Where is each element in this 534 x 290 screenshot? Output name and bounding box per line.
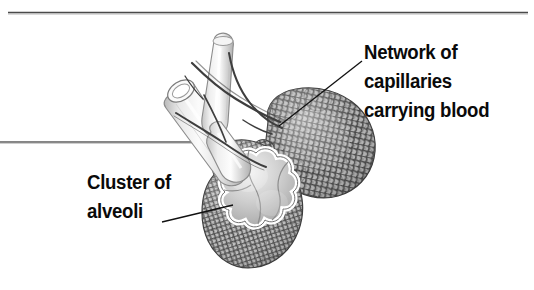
label-capillaries-line2: capillaries — [364, 67, 489, 96]
label-cluster-of-alveoli: Cluster of alveoli — [87, 168, 171, 226]
label-capillaries-line3: carrying blood — [364, 96, 489, 125]
figure-canvas: Network of capillaries carrying blood Cl… — [0, 0, 534, 290]
label-alveoli-line1: Cluster of — [87, 168, 171, 197]
label-alveoli-line2: alveoli — [87, 197, 171, 226]
illustration-group — [162, 33, 384, 276]
label-network-of-capillaries: Network of capillaries carrying blood — [364, 38, 489, 125]
label-capillaries-line1: Network of — [364, 38, 489, 67]
